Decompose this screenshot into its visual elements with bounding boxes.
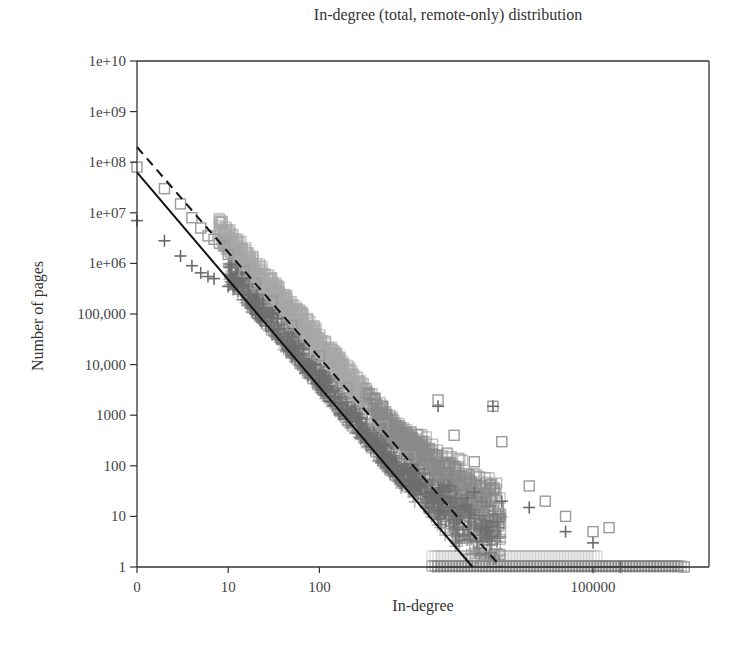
- x-tick-label: 100: [308, 579, 331, 595]
- square-marker: [540, 496, 550, 506]
- plus-marker: [186, 260, 198, 272]
- square-marker: [497, 437, 507, 447]
- plus-marker: [587, 537, 599, 549]
- square-marker: [561, 511, 571, 521]
- y-tick-label: 1: [119, 559, 127, 575]
- y-tick-label: 10,000: [85, 357, 126, 373]
- square-marker: [159, 184, 169, 194]
- y-tick-label: 1e+10: [88, 53, 126, 69]
- square-marker: [469, 457, 479, 467]
- x-tick-label: 100000: [571, 579, 616, 595]
- square-marker: [187, 213, 197, 223]
- chart-plot: 110100100010,000100,0001e+061e+071e+081e…: [0, 0, 736, 651]
- tick-labels: 110100100010,000100,0001e+061e+071e+081e…: [77, 53, 615, 595]
- plus-marker: [208, 273, 220, 285]
- plus-marker: [523, 501, 535, 513]
- plus-marker: [487, 400, 499, 412]
- plus-marker: [175, 250, 187, 262]
- y-tick-label: 1000: [96, 407, 126, 423]
- square-marker: [176, 199, 186, 209]
- square-marker: [449, 430, 459, 440]
- x-tick-label: 10: [221, 579, 236, 595]
- plus-marker: [560, 526, 572, 538]
- square-marker: [604, 523, 614, 533]
- x-tick-label: 0: [133, 579, 141, 595]
- remote-only-fit-line: [137, 172, 473, 567]
- fit-lines: [137, 147, 501, 567]
- y-axis-label: Number of pages: [29, 261, 47, 371]
- square-marker: [524, 481, 534, 491]
- y-tick-label: 1e+09: [88, 104, 126, 120]
- y-tick-label: 10: [111, 508, 126, 524]
- y-tick-label: 100,000: [77, 306, 126, 322]
- y-tick-label: 1e+08: [88, 154, 126, 170]
- x-axis-label: In-degree: [392, 597, 453, 615]
- data-points: [131, 162, 689, 573]
- square-marker: [588, 527, 598, 537]
- y-tick-label: 1e+07: [88, 205, 126, 221]
- plus-marker: [158, 235, 170, 247]
- y-tick-label: 100: [104, 458, 127, 474]
- total-fit-line: [137, 147, 501, 567]
- plus-marker: [432, 400, 444, 412]
- y-tick-label: 1e+06: [88, 255, 126, 271]
